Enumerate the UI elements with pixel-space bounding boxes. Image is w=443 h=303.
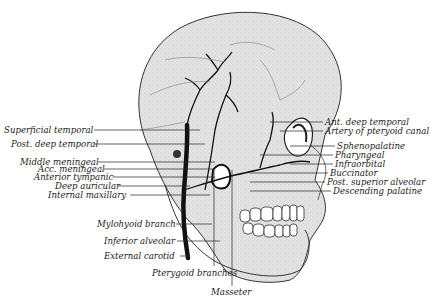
label-masseter: Masseter	[211, 287, 251, 297]
label-pterygoid-branches: Pterygoid branches	[152, 268, 237, 278]
label-post-deep-temporal: Post. deep temporal	[11, 139, 98, 149]
label-mylohyoid-branch: Mylohyoid branch	[97, 219, 176, 229]
label-superficial-temporal: Superficial temporal	[4, 125, 93, 135]
label-artery-of-pteryoid-canal: Artery of pteryoid canal	[325, 126, 429, 136]
label-descending-palatine: Descending palatine	[333, 186, 422, 196]
label-internal-maxillary: Internal maxillary	[48, 190, 126, 200]
label-inferior-alveolar: Inferior alveolar	[104, 236, 175, 246]
anatomy-diagram: Superficial temporalPost. deep temporalM…	[0, 0, 443, 303]
label-external-carotid: External carotid	[104, 251, 175, 261]
